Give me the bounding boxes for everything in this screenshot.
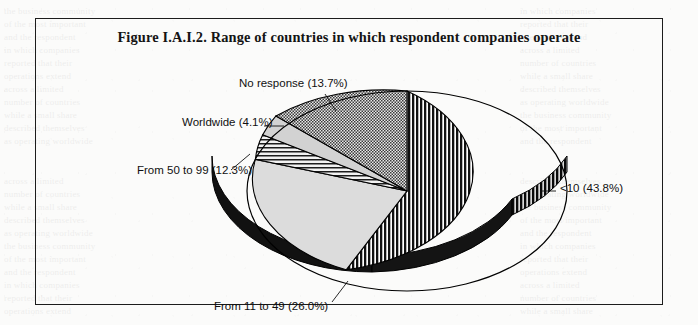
ghost-text-line: operations extend (4, 306, 71, 316)
pie-label-lt-10: <10 (43.8%) (560, 182, 623, 195)
ghost-text-line: in which companies (520, 6, 596, 16)
pie-chart-svg (36, 19, 664, 306)
pie-chart: No response (13.7%) Worldwide (4.1%) Fro… (36, 19, 662, 304)
pie-label-from-50-to-99: From 50 to 99 (12.3%) (137, 164, 252, 177)
figure-frame: Figure I.A.I.2. Range of countries in wh… (35, 18, 663, 305)
ghost-text-line: while a small share (520, 306, 593, 316)
pie-label-no-response: No response (13.7%) (239, 77, 348, 90)
pie-label-from-11-to-49: From 11 to 49 (26.0%) (214, 300, 328, 313)
leader-from-11-to-49 (332, 281, 348, 302)
pie-label-worldwide: Worldwide (4.1%) (182, 116, 273, 129)
ghost-text-line: the business community (4, 6, 95, 16)
side-wall-lt-10 (512, 156, 567, 215)
